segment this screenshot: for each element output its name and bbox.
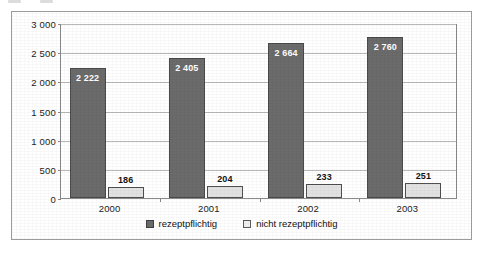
y-axis-tick-label: 3 000 bbox=[31, 19, 56, 30]
legend-entry-nicht-rezeptpflichtig: nicht rezeptpflichtig bbox=[243, 218, 337, 229]
bar-group: 2 760251 bbox=[359, 24, 458, 198]
x-axis-tick-label: 2002 bbox=[297, 203, 319, 214]
plot-area: 05001 0001 5002 0002 5003 000 2 2221862 … bbox=[60, 24, 457, 199]
bar-rezeptpflichtig-2001: 2 405 bbox=[169, 58, 205, 198]
bar-value-label: 2 222 bbox=[76, 73, 99, 83]
x-axis-tick-label: 2003 bbox=[396, 203, 418, 214]
bar-nicht-rezeptpflichtig-2001: 204 bbox=[207, 186, 243, 198]
chart-legend: rezeptpflichtignicht rezeptpflichtig bbox=[12, 218, 471, 229]
bar-group: 2 405204 bbox=[160, 24, 259, 198]
bar-rezeptpflichtig-2003: 2 760 bbox=[367, 37, 403, 198]
bar-nicht-rezeptpflichtig-2003: 251 bbox=[405, 183, 441, 198]
bar-value-label: 204 bbox=[217, 174, 232, 184]
y-axis-tick-label: 1 000 bbox=[31, 135, 56, 146]
x-axis-separator bbox=[260, 198, 261, 202]
bar-rezeptpflichtig-2000: 2 222 bbox=[70, 68, 106, 198]
bar-value-label: 186 bbox=[118, 175, 133, 185]
bar-value-label: 2 405 bbox=[175, 63, 198, 73]
x-axis-tick-label: 2001 bbox=[198, 203, 220, 214]
y-axis-tick-label: 2 000 bbox=[31, 77, 56, 88]
bar-value-label: 2 664 bbox=[275, 48, 298, 58]
y-axis-tick-label: 500 bbox=[40, 164, 56, 175]
y-axis-tick-label: 0 bbox=[51, 194, 56, 205]
x-axis-separator bbox=[359, 198, 360, 202]
y-axis-tick-label: 2 500 bbox=[31, 48, 56, 59]
bar-rezeptpflichtig-2002: 2 664 bbox=[268, 43, 304, 198]
bar-value-label: 233 bbox=[316, 172, 331, 182]
x-axis-tick-label: 2000 bbox=[99, 203, 121, 214]
x-axis-separator bbox=[160, 198, 161, 202]
legend-entry-rezeptpflichtig: rezeptpflichtig bbox=[146, 218, 218, 229]
bar-group: 2 222186 bbox=[61, 24, 160, 198]
legend-label: nicht rezeptpflichtig bbox=[256, 218, 337, 229]
y-tick-mark bbox=[58, 199, 61, 200]
bar-value-label: 2 760 bbox=[374, 42, 397, 52]
bar-nicht-rezeptpflichtig-2000: 186 bbox=[108, 187, 144, 198]
bar-value-label: 251 bbox=[416, 171, 431, 181]
legend-swatch-icon bbox=[243, 220, 251, 228]
bar-group: 2 664233 bbox=[260, 24, 359, 198]
chart-figure: 05001 0001 5002 0002 5003 000 2 2221862 … bbox=[11, 11, 472, 240]
scan-artifact-top bbox=[6, 0, 66, 5]
legend-label: rezeptpflichtig bbox=[159, 218, 218, 229]
y-axis-tick-label: 1 500 bbox=[31, 106, 56, 117]
legend-swatch-icon bbox=[146, 220, 154, 228]
bar-nicht-rezeptpflichtig-2002: 233 bbox=[306, 184, 342, 198]
